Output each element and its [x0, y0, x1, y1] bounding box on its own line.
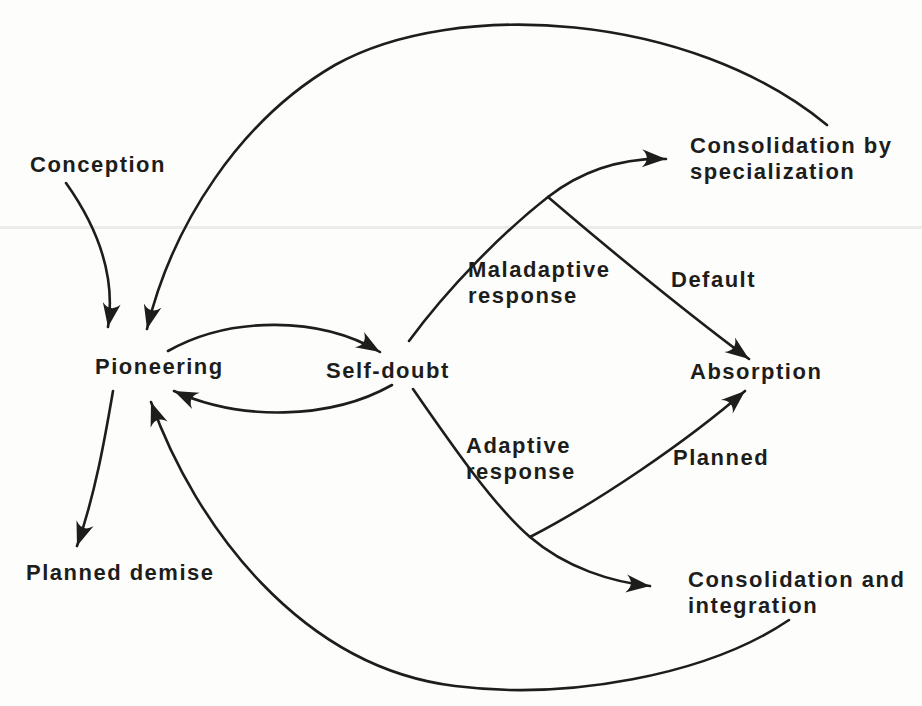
node-planned-demise-label: Planned demise [26, 560, 215, 586]
edge-self-doubt-to-pioneering [174, 385, 392, 412]
edge-label-default: Default [671, 267, 756, 293]
node-absorption-label: Absorption [690, 359, 822, 385]
node-pioneering-label: Pioneering [95, 354, 224, 380]
edge-self-doubt-to-consolidation-by-specialization [409, 159, 666, 341]
node-consolidation-and-integration-label: Consolidation and integration [688, 567, 905, 619]
diagram-canvas: Conception Pioneering Self-doubt Maladap… [0, 0, 922, 706]
edge-pioneering-to-self-doubt [168, 325, 380, 352]
edge-pioneering-to-planned-demise [77, 391, 113, 546]
node-conception-label: Conception [30, 152, 166, 178]
node-self-doubt-label: Self-doubt [326, 358, 450, 384]
edge-label-planned: Planned [673, 445, 769, 471]
node-consolidation-by-specialization-label: Consolidation by specialization [690, 133, 892, 185]
edge-conception-to-pioneering [66, 183, 110, 327]
node-adaptive-response-label: Adaptive response [466, 433, 576, 485]
node-maladaptive-response-label: Maladaptive response [468, 257, 610, 309]
